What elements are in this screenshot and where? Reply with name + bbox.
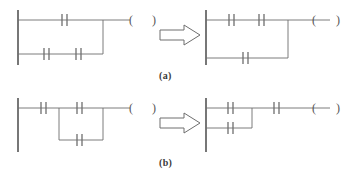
coil-open-paren: (	[312, 101, 316, 115]
coil-open-paren: (	[129, 13, 133, 27]
ladder-diagram-figure: ( ) ( )	[0, 0, 350, 178]
ladder-diagram-canvas: ( ) ( )	[0, 0, 350, 178]
coil-close-paren: )	[152, 13, 156, 27]
coil-close-paren: )	[336, 101, 340, 115]
ladder-a-before: ( )	[18, 10, 156, 65]
coil-close-paren: )	[336, 13, 340, 27]
coil-close-paren: )	[152, 101, 156, 115]
figure-caption-b: (b)	[159, 157, 172, 168]
conversion-arrow-icon	[160, 25, 200, 45]
ladder-b-after: ( )	[206, 98, 340, 152]
coil-open-paren: (	[312, 13, 316, 27]
ladder-b-before: ( )	[18, 98, 156, 152]
coil-open-paren: (	[129, 101, 133, 115]
conversion-arrow-icon	[160, 113, 200, 133]
figure-caption-a: (a)	[159, 70, 172, 81]
ladder-a-after: ( )	[206, 10, 340, 65]
